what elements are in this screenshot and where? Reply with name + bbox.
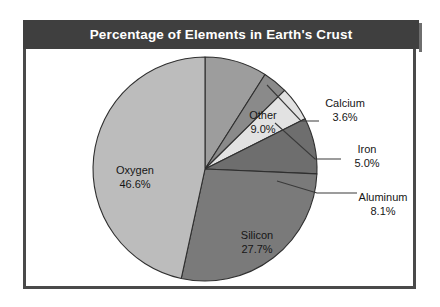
callout-label-aluminum: Aluminum (359, 191, 408, 203)
callout-value-aluminum: 8.1% (370, 205, 395, 217)
slice-label-oxygen: Oxygen (116, 164, 154, 176)
slice-label-silicon: Silicon (241, 229, 273, 241)
slice-value-other: 9.0% (250, 123, 275, 135)
page-title: Percentage of Elements in Earth's Crust (90, 27, 353, 42)
slice-label-other: Other (249, 109, 277, 121)
callout-label-calcium: Calcium (325, 97, 365, 109)
callout-label-iron: Iron (358, 143, 377, 155)
pie-chart-plot-area: Other9.0%Calcium3.6%Iron5.0%Aluminum8.1%… (23, 48, 416, 289)
slice-value-oxygen: 46.6% (119, 178, 150, 190)
callout-value-iron: 5.0% (354, 157, 379, 169)
chart-figure: Percentage of Elements in Earth's Crust … (0, 0, 440, 307)
title-bar-shadow (419, 23, 422, 52)
slice-value-silicon: 27.7% (241, 243, 272, 255)
pie-chart-svg: Other9.0%Calcium3.6%Iron5.0%Aluminum8.1%… (23, 48, 416, 289)
callout-value-calcium: 3.6% (332, 111, 357, 123)
chart-title-bar: Percentage of Elements in Earth's Crust (23, 20, 419, 49)
